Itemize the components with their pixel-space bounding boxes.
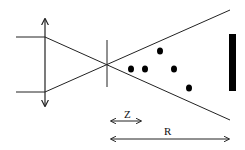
scatterer-dot — [128, 66, 134, 73]
scatterers — [128, 48, 192, 92]
dimension-z-label: Z — [124, 108, 131, 120]
scatterer-dot — [157, 48, 163, 55]
scatterer-dot — [171, 66, 177, 73]
detector-bar — [229, 34, 236, 91]
optics-diagram: Z R — [0, 0, 245, 150]
scatterer-dot — [142, 66, 148, 73]
ray-bottom-through-focus — [45, 10, 230, 92]
dimension-r-label: R — [164, 125, 172, 137]
ray-top-through-focus — [45, 37, 230, 120]
scatterer-dot — [186, 85, 192, 92]
